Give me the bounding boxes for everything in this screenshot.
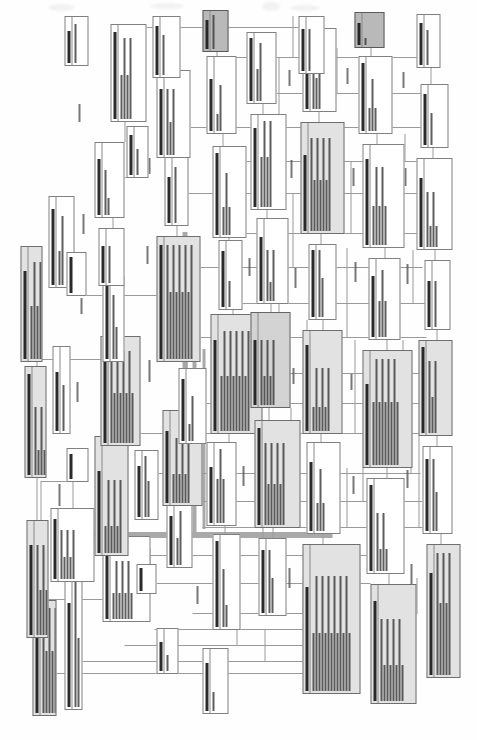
class-box[interactable]: [52, 346, 70, 434]
class-member-line: [378, 206, 380, 245]
class-box[interactable]: [258, 538, 286, 616]
class-box[interactable]: [136, 564, 156, 594]
class-members-compartment: [160, 17, 164, 77]
class-members-compartment: [102, 143, 109, 217]
class-box[interactable]: [64, 560, 82, 710]
class-name: [305, 587, 308, 691]
class-name-compartment: [213, 147, 218, 237]
class-member-line: [387, 359, 389, 465]
class-box[interactable]: [102, 276, 124, 362]
class-box[interactable]: [212, 534, 240, 630]
class-box[interactable]: [218, 240, 242, 310]
class-box[interactable]: [156, 628, 178, 674]
class-box[interactable]: [94, 436, 128, 556]
class-box[interactable]: [416, 14, 440, 68]
class-box[interactable]: [418, 340, 452, 436]
class-name-compartment: [27, 521, 32, 637]
class-box[interactable]: [134, 450, 158, 520]
class-name: [97, 159, 100, 215]
class-box[interactable]: [358, 56, 392, 134]
class-member-line: [69, 557, 71, 579]
class-box[interactable]: [98, 228, 124, 286]
connector: [192, 613, 318, 614]
class-member-line: [268, 550, 270, 613]
class-box[interactable]: [246, 32, 276, 104]
class-box[interactable]: [212, 146, 246, 238]
class-box[interactable]: [256, 218, 288, 304]
class-box[interactable]: [152, 16, 180, 78]
class-box[interactable]: [362, 350, 412, 468]
class-member-line: [315, 78, 317, 109]
class-name-compartment: [363, 351, 368, 467]
class-member-line: [112, 593, 114, 619]
class-box[interactable]: [368, 258, 400, 340]
class-member-line: [225, 173, 227, 235]
class-box[interactable]: [156, 70, 190, 158]
class-box[interactable]: [308, 244, 336, 320]
class-box[interactable]: [300, 122, 344, 234]
class-box[interactable]: [202, 648, 228, 714]
class-member-line: [119, 480, 121, 553]
class-box[interactable]: [250, 114, 286, 210]
class-member-line: [259, 43, 261, 101]
class-member-line: [336, 633, 338, 691]
class-box[interactable]: [164, 156, 188, 226]
class-box[interactable]: [254, 420, 300, 528]
class-box[interactable]: [354, 12, 384, 48]
class-members-compartment: [310, 545, 350, 693]
class-box[interactable]: [66, 252, 86, 296]
class-name-compartment: [99, 229, 104, 285]
class-name: [69, 454, 72, 479]
class-box[interactable]: [302, 330, 342, 434]
connector: [418, 436, 419, 528]
class-members-compartment: [34, 521, 47, 637]
class-box[interactable]: [26, 520, 48, 638]
class-box[interactable]: [50, 508, 94, 582]
class-name: [69, 257, 72, 293]
class-box[interactable]: [206, 442, 236, 526]
class-member-line: [266, 250, 268, 301]
class-box[interactable]: [110, 24, 146, 122]
class-box[interactable]: [424, 260, 450, 330]
class-member-line: [172, 474, 174, 503]
class-box[interactable]: [426, 544, 460, 678]
class-name: [421, 348, 424, 434]
class-box[interactable]: [126, 126, 148, 178]
class-member-line: [63, 557, 65, 579]
class-box[interactable]: [298, 16, 324, 74]
class-member-line: [108, 246, 110, 283]
class-box[interactable]: [24, 366, 46, 478]
class-box[interactable]: [64, 16, 88, 66]
class-box[interactable]: [94, 142, 124, 218]
class-member-line: [321, 278, 323, 317]
class-members-compartment: [374, 479, 387, 573]
class-name: [103, 351, 106, 443]
class-box[interactable]: [178, 368, 206, 444]
class-name: [27, 374, 30, 475]
class-name: [419, 178, 422, 247]
class-members-compartment: [376, 259, 386, 339]
class-name: [97, 471, 100, 553]
class-name: [181, 379, 184, 441]
class-box[interactable]: [362, 144, 404, 248]
class-box[interactable]: [20, 246, 42, 362]
edge-label: [410, 564, 412, 584]
class-box[interactable]: [416, 158, 452, 250]
class-name: [51, 209, 54, 285]
class-box[interactable]: [250, 312, 290, 408]
class-box[interactable]: [366, 478, 404, 574]
class-box[interactable]: [306, 442, 340, 534]
class-member-line: [172, 89, 174, 155]
class-box[interactable]: [202, 10, 228, 52]
class-box[interactable]: [370, 584, 416, 704]
class-box[interactable]: [302, 544, 360, 694]
class-box[interactable]: [422, 446, 452, 534]
class-box[interactable]: [156, 236, 200, 362]
class-members-compartment: [32, 367, 46, 477]
class-box[interactable]: [206, 56, 236, 134]
class-member-line: [104, 526, 106, 553]
class-box[interactable]: [66, 448, 88, 482]
class-name-compartment: [421, 85, 426, 147]
class-name: [311, 251, 314, 318]
class-box[interactable]: [420, 84, 448, 148]
